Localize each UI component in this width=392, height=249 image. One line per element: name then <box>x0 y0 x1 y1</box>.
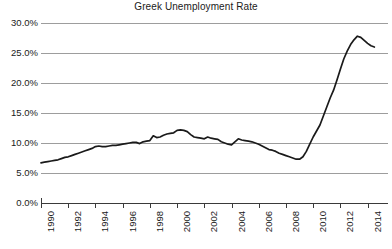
x-axis-tick <box>313 203 314 208</box>
x-axis-tick <box>68 203 69 208</box>
y-axis-tick-label: 30.0% <box>0 17 38 28</box>
y-axis-tick-label: 5.0% <box>0 167 38 178</box>
x-axis-tick <box>204 203 205 208</box>
x-axis-tick <box>286 203 287 208</box>
x-axis-tick-label: 2010 <box>317 211 328 232</box>
x-axis-tick-label: 2012 <box>344 211 355 232</box>
gridline <box>41 53 388 54</box>
x-axis-tick-label: 2000 <box>181 211 192 232</box>
y-axis-tick-label: 25.0% <box>0 47 38 58</box>
x-axis-tick <box>41 203 42 208</box>
chart-title: Greek Unemployment Rate <box>0 1 392 12</box>
gridline <box>41 113 388 114</box>
y-axis-tick-label: 20.0% <box>0 77 38 88</box>
x-axis-tick <box>232 203 233 208</box>
x-axis-tick <box>259 203 260 208</box>
x-axis-tick-label: 1990 <box>45 211 56 232</box>
x-axis-tick-label: 1994 <box>99 211 110 232</box>
x-axis-tick <box>177 203 178 208</box>
x-axis-tick <box>95 203 96 208</box>
gridline <box>41 143 388 144</box>
x-axis-tick <box>340 203 341 208</box>
y-axis-tick-label: 15.0% <box>0 107 38 118</box>
plot-area <box>41 23 388 203</box>
y-axis-tick-label: 0.0% <box>0 197 38 208</box>
x-axis-tick-label: 1996 <box>127 211 138 232</box>
y-axis-tick-label: 10.0% <box>0 137 38 148</box>
x-axis-tick-label: 1992 <box>72 211 83 232</box>
x-axis-tick-label: 2014 <box>372 211 383 232</box>
x-axis-tick <box>123 203 124 208</box>
x-axis-tick-label: 2004 <box>236 211 247 232</box>
gridline <box>41 83 388 84</box>
x-axis-tick <box>150 203 151 208</box>
x-axis-tick-label: 2002 <box>208 211 219 232</box>
x-axis-tick-label: 2008 <box>290 211 301 232</box>
x-axis-tick-label: 2006 <box>263 211 274 232</box>
chart-screenshot: Greek Unemployment Rate 0.0%5.0%10.0%15.… <box>0 0 392 249</box>
x-axis-tick <box>368 203 369 208</box>
gridline <box>41 173 388 174</box>
x-axis-tick-label: 1998 <box>154 211 165 232</box>
x-axis-line <box>41 203 388 204</box>
gridline <box>41 23 388 24</box>
